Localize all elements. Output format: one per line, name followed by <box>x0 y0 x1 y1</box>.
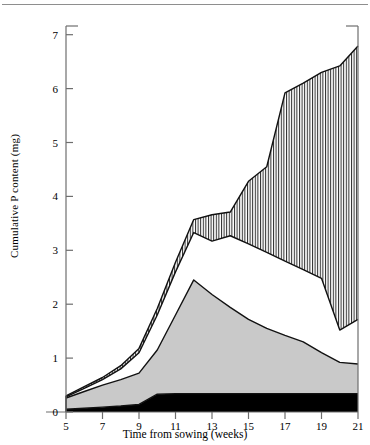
y-tick-label: 2 <box>40 299 58 309</box>
cumulative-p-content-area-chart <box>0 0 370 445</box>
y-tick-label: 4 <box>40 191 58 201</box>
y-tick-label: 0 <box>40 407 58 417</box>
y-tick-marks <box>66 35 73 412</box>
y-tick-label: 1 <box>40 353 58 363</box>
y-tick-label: 6 <box>40 84 58 94</box>
y-tick-label: 5 <box>40 138 58 148</box>
y-tick-label: 7 <box>40 30 58 40</box>
x-axis-title: Time from sowing (weeks) <box>0 428 370 440</box>
y-axis-title: Cumulative P content (mg) <box>8 96 20 296</box>
x-tick-marks <box>66 412 358 419</box>
y-tick-label: 3 <box>40 245 58 255</box>
stacked-area-bands <box>66 46 358 412</box>
figure-container: 01234567 579111315171921 Cumulative P co… <box>0 0 370 445</box>
